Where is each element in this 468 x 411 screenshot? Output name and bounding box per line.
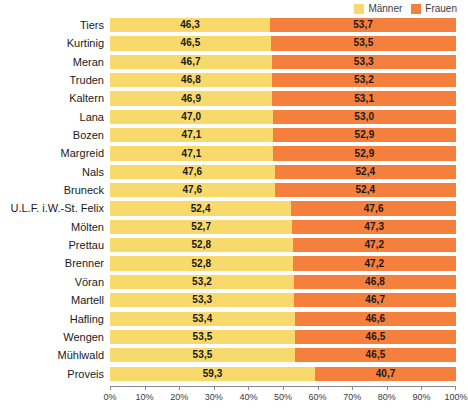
category-label: Vöran [0,273,104,291]
bar-segment-maenner[interactable]: 47,0 [110,110,273,124]
bar-track: 52,847,2 [110,256,456,270]
square-swatch-icon [411,4,421,14]
bar-segment-frauen[interactable]: 53,1 [272,91,456,105]
bar-segment-frauen[interactable]: 53,2 [272,73,456,87]
bar-track: 52,847,2 [110,238,456,252]
bar-segment-maenner[interactable]: 52,8 [110,238,293,252]
bar-segment-maenner[interactable]: 46,7 [110,55,272,69]
bar-row[interactable]: Tiers46,353,7 [0,16,465,34]
bar-row[interactable]: Margreid47,152,9 [0,144,465,162]
bar-row[interactable]: Meran46,753,3 [0,53,465,71]
bar-segment-maenner[interactable]: 47,1 [110,146,273,160]
bar-segment-frauen[interactable]: 47,3 [292,220,456,234]
bar-segment-maenner[interactable]: 53,3 [110,293,294,307]
category-label: Meran [0,53,104,71]
axis-tick-mark [179,386,180,390]
bar-value-maenner: 59,3 [203,369,223,379]
axis-tick-mark [421,386,422,390]
category-label: Bruneck [0,181,104,199]
bar-value-frauen: 53,2 [354,75,374,85]
bar-value-maenner: 52,7 [191,222,211,232]
bar-row[interactable]: Hafling53,446,6 [0,310,465,328]
bar-track: 47,652,4 [110,165,456,179]
bar-row[interactable]: Nals47,652,4 [0,163,465,181]
axis-tick-label: 60% [309,392,327,402]
axis-tick-mark [318,386,319,390]
axis-tick-mark [110,386,111,390]
bar-segment-maenner[interactable]: 59,3 [110,367,315,381]
axis-tick-mark [352,386,353,390]
bar-row[interactable]: Proveis59,340,7 [0,365,465,383]
bar-segment-maenner[interactable]: 53,5 [110,348,295,362]
bar-row[interactable]: Mölten52,747,3 [0,218,465,236]
bar-segment-maenner[interactable]: 46,5 [110,36,271,50]
bar-segment-frauen[interactable]: 47,2 [293,256,456,270]
bar-segment-maenner[interactable]: 46,3 [110,18,270,32]
bar-value-maenner: 52,8 [191,259,211,269]
bar-segment-frauen[interactable]: 53,5 [271,36,456,50]
bar-segment-frauen[interactable]: 52,9 [273,146,456,160]
bar-segment-frauen[interactable]: 46,5 [295,348,456,362]
bar-value-maenner: 46,3 [180,20,200,30]
bar-segment-maenner[interactable]: 52,7 [110,220,292,234]
chart-legend: MännerFrauen [354,2,457,15]
bar-segment-frauen[interactable]: 53,3 [272,55,456,69]
bar-track: 47,152,9 [110,146,456,160]
legend-label: Männer [368,3,402,14]
category-label: Hafling [0,310,104,328]
legend-entry-maenner[interactable]: Männer [354,3,402,14]
category-label: U.L.F. i.W.-St. Felix [0,199,104,217]
bar-value-frauen: 47,3 [364,222,384,232]
bar-segment-maenner[interactable]: 46,9 [110,91,272,105]
bar-track: 52,747,3 [110,220,456,234]
legend-entry-frauen[interactable]: Frauen [411,3,457,14]
bar-segment-maenner[interactable]: 52,4 [110,201,291,215]
bar-value-frauen: 52,9 [355,130,375,140]
bar-segment-frauen[interactable]: 46,8 [294,275,456,289]
bar-track: 53,546,5 [110,348,456,362]
bar-value-maenner: 46,9 [181,94,201,104]
bar-segment-frauen[interactable]: 53,0 [273,110,456,124]
bar-segment-maenner[interactable]: 52,8 [110,256,293,270]
bar-value-maenner: 53,2 [192,277,212,287]
bar-row[interactable]: Lana47,053,0 [0,108,465,126]
bar-row[interactable]: Bozen47,152,9 [0,126,465,144]
bar-row[interactable]: Kaltern46,953,1 [0,89,465,107]
bar-row[interactable]: Brenner52,847,2 [0,254,465,272]
bar-segment-maenner[interactable]: 53,5 [110,330,295,344]
bar-segment-maenner[interactable]: 47,1 [110,128,273,142]
bar-value-frauen: 46,7 [365,295,385,305]
bar-track: 46,353,7 [110,18,456,32]
bar-segment-maenner[interactable]: 53,2 [110,275,294,289]
bar-row[interactable]: Bruneck47,652,4 [0,181,465,199]
bar-segment-maenner[interactable]: 47,6 [110,165,275,179]
bar-segment-frauen[interactable]: 52,4 [275,183,456,197]
bar-segment-frauen[interactable]: 47,2 [293,238,456,252]
bar-segment-frauen[interactable]: 52,9 [273,128,456,142]
bar-segment-frauen[interactable]: 47,6 [291,201,456,215]
bar-segment-maenner[interactable]: 53,4 [110,312,295,326]
bar-segment-frauen[interactable]: 46,6 [295,312,456,326]
bar-track: 53,446,6 [110,312,456,326]
bar-value-frauen: 53,1 [354,94,374,104]
bar-row[interactable]: U.L.F. i.W.-St. Felix52,447,6 [0,199,465,217]
bar-value-maenner: 47,1 [182,149,202,159]
category-label: Martell [0,291,104,309]
bar-segment-maenner[interactable]: 47,6 [110,183,275,197]
x-axis: 0%10%20%30%40%50%60%70%80%90%100% [110,386,456,411]
axis-tick-label: 20% [170,392,188,402]
bar-row[interactable]: Truden46,853,2 [0,71,465,89]
bar-row[interactable]: Mühlwald53,546,5 [0,346,465,364]
bar-segment-frauen[interactable]: 46,5 [295,330,456,344]
bar-segment-frauen[interactable]: 46,7 [294,293,456,307]
bar-row[interactable]: Vöran53,246,8 [0,273,465,291]
bar-row[interactable]: Martell53,346,7 [0,291,465,309]
bar-segment-frauen[interactable]: 40,7 [315,367,456,381]
bar-row[interactable]: Wengen53,546,5 [0,328,465,346]
bar-row[interactable]: Prettau52,847,2 [0,236,465,254]
bar-segment-frauen[interactable]: 53,7 [270,18,456,32]
bar-row[interactable]: Kurtinig46,553,5 [0,34,465,52]
bar-segment-maenner[interactable]: 46,8 [110,73,272,87]
bar-segment-frauen[interactable]: 52,4 [275,165,456,179]
